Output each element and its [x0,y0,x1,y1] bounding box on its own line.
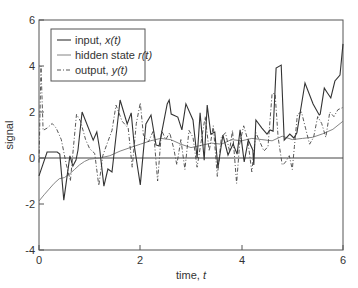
x-tick-label: 4 [239,254,245,266]
x-tick-label: 2 [137,254,143,266]
y-tick-label: 0 [29,152,35,164]
line-chart: 6 4 2 0 -2 -4 0 2 4 6 time, t signal inp… [0,0,358,288]
y-axis-label: signal [3,121,15,150]
legend-label-output: output, y(t) [75,64,128,76]
legend-label-hidden-state: hidden state r(t) [75,49,152,61]
x-tick-label: 6 [340,254,346,266]
y-tick-label: 6 [29,14,35,26]
legend-label-input: input, x(t) [75,34,121,46]
x-tick-label: 0 [36,254,42,266]
y-tick-label: 2 [29,106,35,118]
y-tick-label: -4 [25,244,35,256]
x-axis-label: time, t [176,269,207,281]
legend: input, x(t) hidden state r(t) output, y(… [51,29,152,81]
y-tick-label: 4 [29,60,35,72]
y-tick-label: -2 [25,198,35,210]
